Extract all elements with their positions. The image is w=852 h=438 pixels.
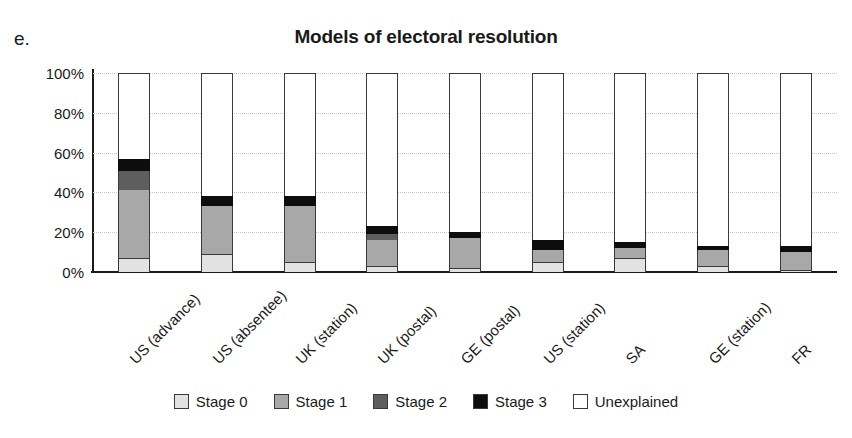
y-tick-label: 100% (46, 65, 84, 82)
bar-segment-stage-3 (118, 159, 150, 171)
legend-label: Stage 2 (395, 393, 447, 410)
chart-legend: Stage 0Stage 1Stage 2Stage 3Unexplained (0, 393, 852, 410)
y-tick-label: 80% (54, 104, 84, 121)
bar-sa[interactable] (614, 73, 646, 272)
bar-segment-unexplained (201, 73, 233, 196)
bar-us-advance[interactable] (118, 73, 150, 272)
bar-segment-stage-0 (284, 262, 316, 272)
y-axis-line (92, 69, 94, 273)
legend-label: Stage 1 (296, 393, 348, 410)
legend-label: Unexplained (595, 393, 678, 410)
x-tick-label: FR (788, 341, 814, 367)
bar-segment-stage-3 (366, 226, 398, 234)
bar-uk-postal[interactable] (366, 73, 398, 272)
legend-item[interactable]: Stage 0 (174, 393, 248, 410)
y-tick-label: 0% (62, 264, 84, 281)
x-tick-label: GE (postal) (457, 301, 523, 367)
bar-segment-stage-1 (449, 238, 481, 268)
bar-segment-stage-3 (201, 196, 233, 206)
x-tick-label: US (station) (540, 299, 608, 367)
bar-segment-stage-0 (532, 262, 564, 272)
x-tick-label: US (absentee) (209, 287, 289, 367)
bar-segment-stage-1 (366, 240, 398, 266)
bar-segment-stage-3 (284, 196, 316, 206)
bar-segment-unexplained (449, 73, 481, 232)
x-tick-label: UK (station) (292, 299, 360, 367)
bar-segment-unexplained (118, 73, 150, 159)
bar-segment-stage-0 (780, 270, 812, 272)
bar-segment-stage-3 (532, 240, 564, 250)
bar-segment-stage-0 (449, 268, 481, 272)
bar-segment-unexplained (614, 73, 646, 242)
bar-segment-unexplained (284, 73, 316, 196)
bar-segment-stage-1 (614, 248, 646, 258)
legend-item[interactable]: Stage 3 (473, 393, 547, 410)
bar-ge-station[interactable] (697, 73, 729, 272)
legend-swatch-icon (473, 394, 488, 409)
bar-segment-stage-0 (118, 258, 150, 272)
plot-area: 0%20%40%60%80%100% US (advance)US (absen… (93, 73, 837, 272)
bar-ge-postal[interactable] (449, 73, 481, 272)
bar-segment-stage-1 (532, 250, 564, 262)
bar-segment-stage-0 (614, 258, 646, 272)
bar-segment-stage-1 (697, 250, 729, 266)
x-tick-label: SA (622, 341, 648, 367)
legend-label: Stage 3 (495, 393, 547, 410)
legend-item[interactable]: Stage 1 (274, 393, 348, 410)
bar-segment-unexplained (366, 73, 398, 226)
bar-uk-station[interactable] (284, 73, 316, 272)
legend-label: Stage 0 (196, 393, 248, 410)
bar-us-absentee[interactable] (201, 73, 233, 272)
bar-us-station[interactable] (532, 73, 564, 272)
bar-segment-stage-1 (284, 206, 316, 262)
bar-segment-stage-1 (201, 206, 233, 254)
chart-title: Models of electoral resolution (0, 26, 852, 48)
y-tick-label: 40% (54, 184, 84, 201)
x-tick-label: GE (station) (705, 298, 774, 367)
x-tick-label: US (advance) (126, 290, 203, 367)
bar-segment-unexplained (780, 73, 812, 246)
bar-segment-stage-1 (118, 190, 150, 258)
bar-segment-stage-0 (201, 254, 233, 272)
bar-segment-stage-1 (780, 252, 812, 270)
y-tick-label: 20% (54, 224, 84, 241)
bar-segment-stage-2 (118, 171, 150, 191)
bar-fr[interactable] (780, 73, 812, 272)
legend-swatch-icon (573, 394, 588, 409)
legend-swatch-icon (174, 394, 189, 409)
x-tick-label: UK (postal) (374, 302, 439, 367)
bar-segment-stage-0 (697, 266, 729, 272)
legend-item[interactable]: Unexplained (573, 393, 678, 410)
legend-swatch-icon (373, 394, 388, 409)
legend-item[interactable]: Stage 2 (373, 393, 447, 410)
bar-segment-unexplained (532, 73, 564, 240)
bar-segment-unexplained (697, 73, 729, 246)
y-tick-label: 60% (54, 144, 84, 161)
bar-segment-stage-0 (366, 266, 398, 272)
legend-swatch-icon (274, 394, 289, 409)
chart-figure: e. Models of electoral resolution 0%20%4… (0, 0, 852, 438)
